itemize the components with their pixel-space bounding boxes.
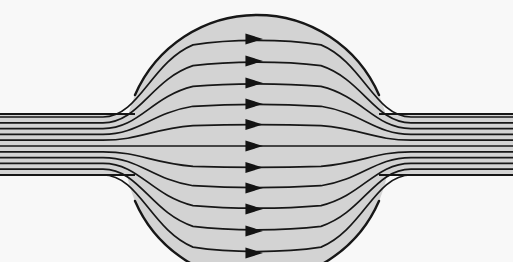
figure-root <box>0 0 513 262</box>
streamline-flow-diagram <box>0 0 513 262</box>
